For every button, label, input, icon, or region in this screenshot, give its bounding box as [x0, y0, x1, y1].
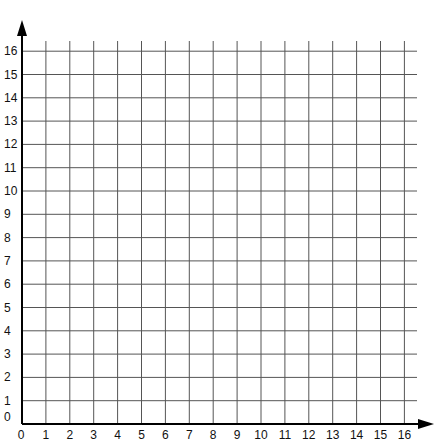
x-tick-label: 4	[114, 428, 121, 442]
y-tick-label: 2	[4, 370, 11, 384]
x-axis-arrow-icon	[418, 419, 434, 429]
y-tick-label: 0	[4, 410, 11, 424]
x-tick-label: 11	[279, 428, 292, 442]
y-tick-label: 6	[4, 277, 11, 291]
x-tick-label: 8	[210, 428, 217, 442]
x-tick-label: 16	[398, 428, 412, 442]
y-tick-label: 16	[4, 44, 18, 58]
x-tick-label: 13	[326, 428, 340, 442]
y-tick-label: 1	[4, 394, 11, 408]
y-tick-label: 3	[4, 347, 11, 361]
coordinate-grid: 0123456789101112131415160123456789101112…	[0, 0, 435, 443]
y-axis-arrow-icon	[17, 20, 27, 36]
x-tick-label: 2	[66, 428, 73, 442]
x-tick-label: 9	[234, 428, 241, 442]
y-tick-label: 5	[4, 301, 11, 315]
y-tick-label: 8	[4, 231, 11, 245]
x-tick-label: 3	[90, 428, 97, 442]
x-tick-label: 5	[138, 428, 145, 442]
y-tick-label: 14	[4, 91, 18, 105]
y-tick-label: 9	[4, 207, 11, 221]
x-tick-label: 7	[186, 428, 193, 442]
y-tick-label: 15	[4, 68, 18, 82]
y-tick-label: 12	[4, 137, 18, 151]
x-tick-label: 12	[302, 428, 316, 442]
y-tick-label: 13	[4, 114, 18, 128]
x-tick-label: 1	[43, 428, 50, 442]
y-tick-label: 4	[4, 324, 11, 338]
x-tick-label: 10	[254, 428, 268, 442]
y-tick-label: 7	[4, 254, 11, 268]
y-tick-label: 10	[4, 184, 18, 198]
x-tick-label: 0	[18, 428, 25, 442]
x-tick-label: 15	[374, 428, 388, 442]
y-tick-label: 11	[4, 161, 17, 175]
x-tick-label: 6	[162, 428, 169, 442]
x-tick-label: 14	[350, 428, 364, 442]
